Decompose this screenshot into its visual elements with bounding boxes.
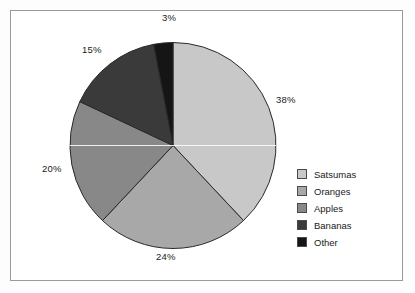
legend-swatch-icon — [297, 186, 307, 196]
pie-chart-figure: 3% 15% 20% 24% 38% SatsumasOrangesApples… — [0, 0, 415, 293]
legend-item-label: Bananas — [314, 220, 352, 231]
legend-item-other[interactable]: Other — [297, 234, 392, 250]
legend-item-label: Oranges — [314, 186, 350, 197]
legend-swatch-icon — [297, 169, 307, 179]
legend-swatch-icon — [297, 237, 307, 247]
slice-label-satsumas: 38% — [276, 94, 296, 105]
chart-legend: SatsumasOrangesApplesBananasOther — [297, 166, 392, 251]
legend-item-oranges[interactable]: Oranges — [297, 183, 392, 199]
legend-item-apples[interactable]: Apples — [297, 200, 392, 216]
legend-item-bananas[interactable]: Bananas — [297, 217, 392, 233]
slice-label-apples: 20% — [42, 163, 62, 174]
legend-item-label: Satsumas — [314, 169, 356, 180]
legend-swatch-icon — [297, 203, 307, 213]
legend-item-label: Other — [314, 237, 338, 248]
legend-item-label: Apples — [314, 203, 343, 214]
slice-label-other: 3% — [162, 12, 176, 23]
slice-label-oranges: 24% — [156, 251, 176, 262]
legend-item-satsumas[interactable]: Satsumas — [297, 166, 392, 182]
slice-label-bananas: 15% — [82, 44, 102, 55]
legend-swatch-icon — [297, 220, 307, 230]
